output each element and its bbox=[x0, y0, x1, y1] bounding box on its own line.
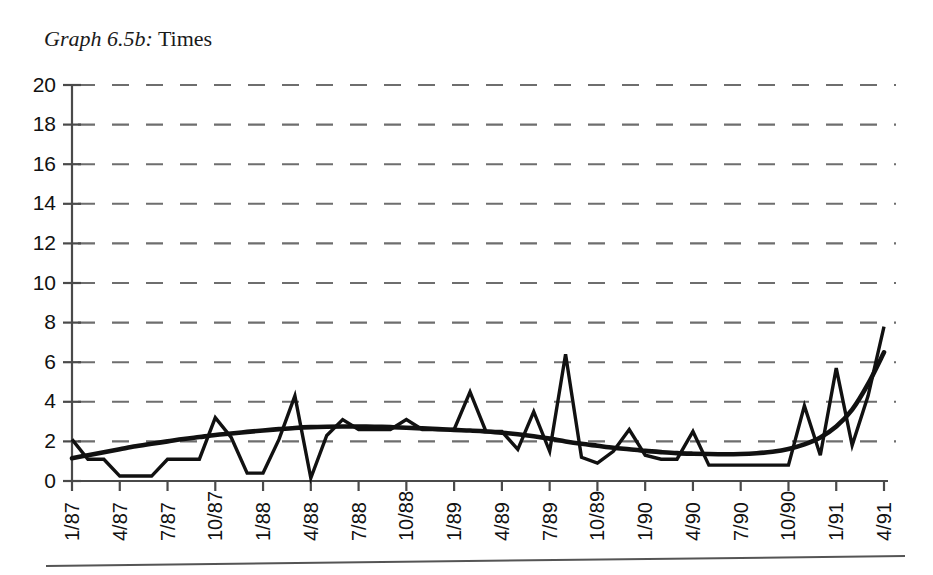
x-tick-label: 1/90 bbox=[634, 502, 656, 541]
x-tick-label: 4/87 bbox=[109, 502, 131, 541]
y-tick-label: 18 bbox=[33, 112, 56, 135]
y-tick-labels: 02468101214161820 bbox=[33, 73, 57, 492]
y-tick-label: 4 bbox=[44, 389, 56, 412]
x-tick-label: 4/88 bbox=[300, 502, 322, 541]
y-tick-label: 10 bbox=[33, 271, 56, 294]
y-tick-label: 16 bbox=[33, 152, 56, 175]
y-tick-label: 0 bbox=[44, 469, 56, 492]
x-tick-label: 4/91 bbox=[873, 502, 895, 541]
x-tick-labels: 1/874/877/8710/871/884/887/8810/881/894/… bbox=[61, 491, 895, 541]
x-tick-label: 1/88 bbox=[252, 502, 274, 541]
y-tick-label: 12 bbox=[33, 231, 56, 254]
gridlines bbox=[78, 85, 896, 441]
bottom-rule bbox=[46, 556, 905, 566]
x-tick-label: 10/90 bbox=[777, 491, 799, 541]
x-tick-label: 7/89 bbox=[539, 502, 561, 541]
x-tick-label: 7/90 bbox=[730, 502, 752, 541]
y-tick-label: 20 bbox=[33, 73, 56, 96]
y-tick-label: 8 bbox=[44, 310, 56, 333]
x-tick-label: 4/90 bbox=[682, 502, 704, 541]
y-axis bbox=[63, 85, 81, 481]
x-tick-label: 10/88 bbox=[395, 491, 417, 541]
x-tick-label: 7/87 bbox=[157, 502, 179, 541]
y-tick-label: 6 bbox=[44, 350, 56, 373]
y-tick-label: 2 bbox=[44, 429, 56, 452]
x-tick-label: 1/87 bbox=[61, 502, 83, 541]
figure-graph-6-5b: Graph 6.5b: Times 02468101214161820 1/87… bbox=[0, 0, 933, 575]
x-tick-label: 7/88 bbox=[348, 502, 370, 541]
x-tick-label: 10/87 bbox=[204, 491, 226, 541]
x-tick-label: 1/91 bbox=[825, 502, 847, 541]
x-axis bbox=[72, 481, 888, 491]
x-tick-label: 1/89 bbox=[443, 502, 465, 541]
x-tick-label: 4/89 bbox=[491, 502, 513, 541]
y-tick-label: 14 bbox=[33, 191, 57, 214]
x-tick-label: 10/89 bbox=[586, 491, 608, 541]
line-chart: 02468101214161820 1/874/877/8710/871/884… bbox=[0, 0, 933, 575]
